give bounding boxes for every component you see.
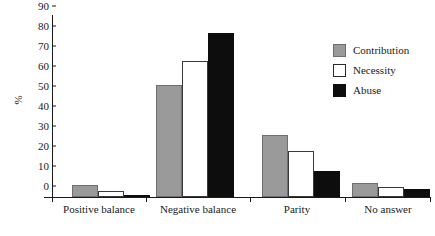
- bar: [98, 191, 124, 197]
- legend-item: Necessity: [333, 64, 409, 77]
- bar-group: [352, 183, 430, 197]
- y-axis-tick-mark: [52, 186, 56, 187]
- bar: [404, 189, 430, 197]
- legend-swatch: [333, 44, 346, 57]
- y-axis-tick: 70: [38, 41, 52, 52]
- y-axis-tick: 60: [38, 61, 52, 72]
- y-axis-tick: 0: [44, 181, 53, 192]
- bar-group: [262, 135, 340, 197]
- y-axis-tick-label: 90: [38, 1, 52, 12]
- y-axis-title: %: [12, 95, 24, 104]
- y-axis-tick: 10: [38, 161, 52, 172]
- legend-item: Abuse: [333, 84, 409, 97]
- bar: [314, 171, 340, 197]
- bar: [156, 85, 182, 197]
- x-axis-category-label: Parity: [284, 203, 310, 215]
- bar: [288, 151, 314, 197]
- y-axis-tick-mark: [52, 106, 56, 107]
- y-axis-tick-mark: [52, 66, 56, 67]
- y-axis-tick-label: 50: [38, 81, 52, 92]
- y-axis-tick-label: 60: [38, 61, 52, 72]
- y-axis-tick-label: 30: [38, 121, 52, 132]
- x-axis-tick-mark: [250, 197, 251, 202]
- legend-label: Abuse: [353, 85, 381, 96]
- y-axis-tick-mark: [52, 26, 56, 27]
- y-axis-tick-label: 0: [44, 181, 53, 192]
- x-axis-category-label: No answer: [364, 203, 411, 215]
- bar: [208, 33, 234, 197]
- legend-swatch: [333, 64, 346, 77]
- y-axis-tick-label: 70: [38, 41, 52, 52]
- legend-item: Contribution: [333, 44, 409, 57]
- legend-swatch: [333, 84, 346, 97]
- y-axis-tick: 40: [38, 101, 52, 112]
- y-axis-tick: 30: [38, 121, 52, 132]
- x-axis-tick-mark: [430, 197, 431, 202]
- legend-label: Contribution: [353, 45, 409, 56]
- bar: [182, 61, 208, 197]
- x-axis-category-label: Negative balance: [160, 203, 236, 215]
- x-axis-tick-mark: [52, 197, 53, 202]
- y-axis-tick: 50: [38, 81, 52, 92]
- y-axis-tick-mark: [52, 166, 56, 167]
- bar-chart: % 0102030405060708090 Positive balanceNe…: [0, 0, 435, 236]
- legend-label: Necessity: [353, 65, 396, 76]
- y-axis-tick-mark: [52, 6, 56, 7]
- y-axis-tick-mark: [52, 146, 56, 147]
- bar: [72, 185, 98, 197]
- y-axis-tick-label: 40: [38, 101, 52, 112]
- y-axis-tick-label: 80: [38, 21, 52, 32]
- x-axis-tick-mark: [146, 197, 147, 202]
- y-axis-tick: 20: [38, 141, 52, 152]
- y-axis-tick-mark: [52, 46, 56, 47]
- y-axis-tick-label: 20: [38, 141, 52, 152]
- bar-group: [156, 33, 234, 197]
- y-axis-tick: 80: [38, 21, 52, 32]
- x-axis-category-label: Positive balance: [63, 203, 135, 215]
- y-axis-tick-mark: [52, 86, 56, 87]
- legend: ContributionNecessityAbuse: [333, 44, 409, 97]
- y-axis-tick-mark: [52, 126, 56, 127]
- x-axis-tick-mark: [345, 197, 346, 202]
- bar: [378, 187, 404, 197]
- bar: [352, 183, 378, 197]
- bar: [262, 135, 288, 197]
- y-axis-tick-label: 10: [38, 161, 52, 172]
- x-axis-line: [44, 197, 430, 198]
- bar-group: [72, 185, 150, 197]
- y-axis-tick: 90: [38, 1, 52, 12]
